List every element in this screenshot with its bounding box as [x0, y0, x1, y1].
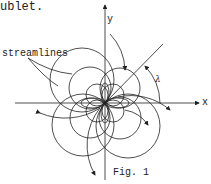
label-pointer [28, 58, 58, 86]
doublet-streamline-diagram [0, 0, 211, 184]
streamline-arc [125, 110, 148, 125]
streamline-arc [110, 34, 125, 70]
